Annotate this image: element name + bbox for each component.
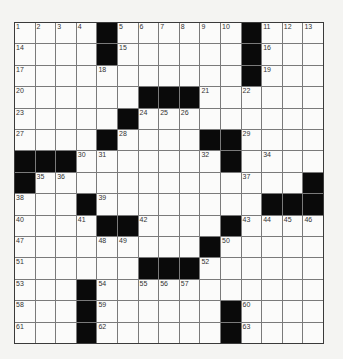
- crossword-cell[interactable]: [159, 216, 179, 236]
- crossword-cell[interactable]: [200, 280, 220, 300]
- crossword-cell[interactable]: [180, 237, 200, 257]
- crossword-cell[interactable]: 6: [139, 23, 159, 43]
- crossword-cell[interactable]: [36, 323, 56, 343]
- crossword-cell[interactable]: [200, 109, 220, 129]
- crossword-cell[interactable]: [118, 66, 138, 86]
- crossword-cell[interactable]: 30: [77, 151, 97, 171]
- crossword-cell[interactable]: [139, 66, 159, 86]
- crossword-cell[interactable]: [180, 130, 200, 150]
- crossword-cell[interactable]: [303, 258, 323, 278]
- crossword-cell[interactable]: [139, 130, 159, 150]
- crossword-cell[interactable]: 22: [242, 87, 262, 107]
- crossword-cell[interactable]: [242, 280, 262, 300]
- crossword-cell[interactable]: [200, 301, 220, 321]
- crossword-cell[interactable]: 61: [15, 323, 35, 343]
- crossword-cell[interactable]: [36, 258, 56, 278]
- crossword-cell[interactable]: [77, 237, 97, 257]
- crossword-cell[interactable]: [283, 323, 303, 343]
- crossword-cell[interactable]: 45: [283, 216, 303, 236]
- crossword-cell[interactable]: [56, 194, 76, 214]
- crossword-cell[interactable]: [180, 216, 200, 236]
- crossword-cell[interactable]: 55: [139, 280, 159, 300]
- crossword-cell[interactable]: [118, 323, 138, 343]
- crossword-cell[interactable]: [262, 109, 282, 129]
- crossword-cell[interactable]: [36, 130, 56, 150]
- crossword-cell[interactable]: [242, 258, 262, 278]
- crossword-cell[interactable]: [118, 173, 138, 193]
- crossword-cell[interactable]: 52: [200, 258, 220, 278]
- crossword-cell[interactable]: [139, 173, 159, 193]
- crossword-cell[interactable]: 2: [36, 23, 56, 43]
- crossword-cell[interactable]: [159, 44, 179, 64]
- crossword-cell[interactable]: [221, 44, 241, 64]
- crossword-cell[interactable]: 20: [15, 87, 35, 107]
- crossword-cell[interactable]: [118, 194, 138, 214]
- crossword-cell[interactable]: [303, 44, 323, 64]
- crossword-cell[interactable]: [303, 237, 323, 257]
- crossword-cell[interactable]: [283, 130, 303, 150]
- crossword-cell[interactable]: [221, 109, 241, 129]
- crossword-cell[interactable]: [139, 194, 159, 214]
- crossword-cell[interactable]: [139, 323, 159, 343]
- crossword-cell[interactable]: [221, 280, 241, 300]
- crossword-cell[interactable]: 54: [97, 280, 117, 300]
- crossword-cell[interactable]: [262, 323, 282, 343]
- crossword-cell[interactable]: [56, 66, 76, 86]
- crossword-cell[interactable]: [36, 280, 56, 300]
- crossword-cell[interactable]: 13: [303, 23, 323, 43]
- crossword-cell[interactable]: [283, 173, 303, 193]
- crossword-cell[interactable]: [159, 66, 179, 86]
- crossword-cell[interactable]: 17: [15, 66, 35, 86]
- crossword-cell[interactable]: [77, 87, 97, 107]
- crossword-cell[interactable]: [118, 258, 138, 278]
- crossword-cell[interactable]: [303, 301, 323, 321]
- crossword-cell[interactable]: [56, 109, 76, 129]
- crossword-cell[interactable]: 40: [15, 216, 35, 236]
- crossword-cell[interactable]: 50: [221, 237, 241, 257]
- crossword-cell[interactable]: [262, 87, 282, 107]
- crossword-cell[interactable]: [36, 216, 56, 236]
- crossword-cell[interactable]: [303, 280, 323, 300]
- crossword-cell[interactable]: 23: [15, 109, 35, 129]
- crossword-cell[interactable]: [262, 280, 282, 300]
- crossword-cell[interactable]: [36, 87, 56, 107]
- crossword-cell[interactable]: [56, 237, 76, 257]
- crossword-cell[interactable]: [159, 237, 179, 257]
- crossword-cell[interactable]: [283, 258, 303, 278]
- crossword-cell[interactable]: 58: [15, 301, 35, 321]
- crossword-cell[interactable]: [36, 66, 56, 86]
- crossword-cell[interactable]: 24: [139, 109, 159, 129]
- crossword-cell[interactable]: [139, 151, 159, 171]
- crossword-cell[interactable]: 42: [139, 216, 159, 236]
- crossword-cell[interactable]: [56, 87, 76, 107]
- crossword-cell[interactable]: 3: [56, 23, 76, 43]
- crossword-cell[interactable]: [36, 237, 56, 257]
- crossword-cell[interactable]: 48: [97, 237, 117, 257]
- crossword-cell[interactable]: [283, 66, 303, 86]
- crossword-cell[interactable]: 32: [200, 151, 220, 171]
- crossword-cell[interactable]: 59: [97, 301, 117, 321]
- crossword-cell[interactable]: 43: [242, 216, 262, 236]
- crossword-cell[interactable]: [97, 258, 117, 278]
- crossword-cell[interactable]: [56, 258, 76, 278]
- crossword-cell[interactable]: [56, 280, 76, 300]
- crossword-cell[interactable]: [159, 130, 179, 150]
- crossword-cell[interactable]: [118, 87, 138, 107]
- crossword-cell[interactable]: 18: [97, 66, 117, 86]
- crossword-cell[interactable]: [200, 194, 220, 214]
- crossword-cell[interactable]: 11: [262, 23, 282, 43]
- crossword-cell[interactable]: [77, 130, 97, 150]
- crossword-cell[interactable]: [77, 66, 97, 86]
- crossword-cell[interactable]: [36, 194, 56, 214]
- crossword-cell[interactable]: 63: [242, 323, 262, 343]
- crossword-cell[interactable]: 53: [15, 280, 35, 300]
- crossword-cell[interactable]: [283, 280, 303, 300]
- crossword-cell[interactable]: 28: [118, 130, 138, 150]
- crossword-cell[interactable]: [56, 44, 76, 64]
- crossword-cell[interactable]: [159, 151, 179, 171]
- crossword-cell[interactable]: [180, 301, 200, 321]
- crossword-cell[interactable]: 26: [180, 109, 200, 129]
- crossword-cell[interactable]: [139, 301, 159, 321]
- crossword-cell[interactable]: 56: [159, 280, 179, 300]
- crossword-cell[interactable]: [303, 109, 323, 129]
